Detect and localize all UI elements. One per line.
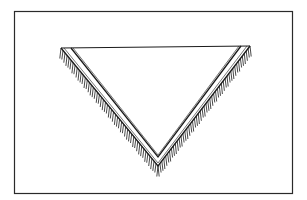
fringe-strand xyxy=(160,164,161,173)
fringe-strand xyxy=(158,166,159,177)
fringe-strand xyxy=(143,149,144,158)
fringe-strand xyxy=(92,87,93,97)
fringe-strand xyxy=(80,73,81,83)
fringe-strand xyxy=(246,51,247,61)
fringe-strand xyxy=(62,51,63,60)
fringe-strand xyxy=(231,71,232,81)
fringe-strand xyxy=(204,106,205,117)
fringe-strand xyxy=(191,124,192,133)
fringe-strand xyxy=(219,86,220,96)
fringe-strand xyxy=(208,101,209,111)
fringe-strand xyxy=(198,114,199,125)
fringe-strand xyxy=(171,149,172,158)
fringe-strand xyxy=(76,68,77,78)
fringe-strand xyxy=(110,110,111,119)
fringe-strand xyxy=(217,89,218,98)
fringe-strand xyxy=(141,146,142,156)
fringe-strand xyxy=(106,105,107,114)
fringe-strand xyxy=(125,127,126,137)
fringe-strand xyxy=(118,119,119,128)
fringe-strand xyxy=(181,136,182,147)
fringe-strand xyxy=(78,70,79,81)
fringe-strand xyxy=(200,111,201,121)
fringe-strand xyxy=(177,141,178,151)
fringe-strand xyxy=(183,134,184,143)
shawl-illustration xyxy=(0,0,307,200)
fringe-strand xyxy=(214,94,215,103)
fringe-strand xyxy=(116,117,117,127)
fringe-strand xyxy=(162,161,163,171)
fringe-strand xyxy=(114,114,115,125)
fringe-strand xyxy=(175,144,176,155)
fringe-strand xyxy=(104,102,105,112)
fringe-strand xyxy=(120,122,121,133)
fringe-strand xyxy=(72,63,73,74)
fringe-strand xyxy=(84,78,85,89)
fringe-strand xyxy=(137,141,138,151)
fringe-strand xyxy=(139,144,140,155)
fringe-strand xyxy=(88,82,89,92)
fringe-strand xyxy=(168,154,169,163)
fringe-strand xyxy=(122,124,123,133)
fringe-strand xyxy=(64,53,65,63)
fringe-strand xyxy=(127,129,128,140)
fringe-strand xyxy=(164,159,165,170)
shawl-top-edge xyxy=(61,46,250,48)
fringe-strand xyxy=(108,107,109,118)
fringe-strand xyxy=(225,79,226,88)
fringe-strand xyxy=(68,58,69,68)
fringe-strand xyxy=(206,104,207,113)
fringe-strand xyxy=(239,61,240,72)
fringe-strand xyxy=(70,60,71,69)
fringe-strand xyxy=(66,55,67,66)
fringe-strand xyxy=(131,134,132,143)
fringe-strand xyxy=(233,69,234,80)
fringe-strand xyxy=(189,126,190,136)
fringe-strand xyxy=(129,132,130,142)
fringe-strand xyxy=(112,112,113,122)
fringe-strand xyxy=(202,109,203,118)
fringe-strand xyxy=(185,131,186,141)
fringe-strand xyxy=(187,129,188,140)
fringe-strand xyxy=(237,64,238,73)
fringe-strand xyxy=(170,151,171,162)
fringe-strand xyxy=(244,54,245,65)
fringe-strand xyxy=(102,100,103,111)
fringe-strand xyxy=(82,75,83,84)
fringe-strand xyxy=(153,161,154,171)
fringe-strand xyxy=(135,139,136,148)
fringe-strand xyxy=(149,156,150,166)
fringe-strand xyxy=(240,59,241,68)
fringe-strand xyxy=(60,48,61,59)
fringe-strand xyxy=(96,92,97,103)
fringe-strand xyxy=(194,119,195,128)
fringe-strand xyxy=(145,151,146,162)
fringe-strand xyxy=(227,76,228,87)
shawl-inner-border-2 xyxy=(73,46,239,155)
shawl xyxy=(61,46,250,166)
fringe-strand xyxy=(98,95,99,104)
fringe-strand xyxy=(133,137,134,148)
fringe-strand xyxy=(86,80,87,89)
fringe-strand xyxy=(216,91,217,102)
fringe-strand xyxy=(250,46,251,57)
fringe-strand xyxy=(223,81,224,91)
fringe-strand xyxy=(221,84,222,95)
fringe-strand xyxy=(235,66,236,76)
fringe-strand xyxy=(74,65,75,74)
fringe-strand xyxy=(94,90,95,99)
fringe-strand xyxy=(179,139,180,148)
fringe-strand xyxy=(173,146,174,156)
fringe-strand xyxy=(100,97,101,107)
fringe-strand xyxy=(212,96,213,106)
fringe-strand xyxy=(151,159,152,170)
shawl-outer-border xyxy=(61,46,250,166)
fringe-strand xyxy=(229,74,230,83)
fringe-strand xyxy=(90,85,91,96)
fringe-strand xyxy=(155,164,156,173)
fringe-strand xyxy=(166,156,167,166)
fringe-strand xyxy=(210,99,211,110)
shawl-fringe xyxy=(60,46,251,177)
fringe-strand xyxy=(242,56,243,66)
fringe-strand xyxy=(196,116,197,126)
